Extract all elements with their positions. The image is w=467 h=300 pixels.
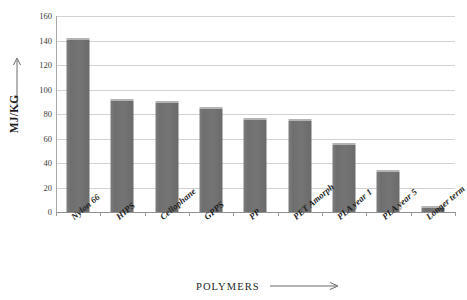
bar-slot xyxy=(278,16,322,212)
bar-slot xyxy=(189,16,233,212)
right-arrow-icon xyxy=(270,281,342,291)
y-tick-label: 40 xyxy=(26,159,52,168)
bar-slot xyxy=(233,16,277,212)
x-axis-category-labels: Nylon 66HIPSCellophaneGPPSPPPET AmorphPL… xyxy=(56,214,455,272)
x-tick-mark xyxy=(455,212,456,216)
y-tick-label: 100 xyxy=(26,86,52,95)
bar xyxy=(67,38,90,212)
bar xyxy=(200,107,223,212)
y-tick-label: 140 xyxy=(26,37,52,46)
x-axis-title: POLYMERS xyxy=(196,281,260,292)
y-axis-title: MJ/KG xyxy=(8,64,20,164)
bar-slot xyxy=(100,16,144,212)
bar xyxy=(111,99,134,212)
y-axis-ticks: 020406080100120140160 xyxy=(22,16,52,213)
bar xyxy=(155,101,178,212)
y-tick-label: 0 xyxy=(26,208,52,217)
plot-area xyxy=(56,16,455,212)
y-tick-label: 120 xyxy=(26,61,52,70)
x-axis-title-block: POLYMERS xyxy=(196,278,342,294)
bar-slot xyxy=(56,16,100,212)
bar-slot xyxy=(366,16,410,212)
y-tick-label: 60 xyxy=(26,135,52,144)
y-tick-label: 160 xyxy=(26,12,52,21)
bars-layer xyxy=(56,16,455,212)
bar-slot xyxy=(411,16,455,212)
y-tick-label: 20 xyxy=(26,184,52,193)
y-tick-label: 80 xyxy=(26,110,52,119)
bar xyxy=(244,118,267,212)
bar-slot xyxy=(145,16,189,212)
